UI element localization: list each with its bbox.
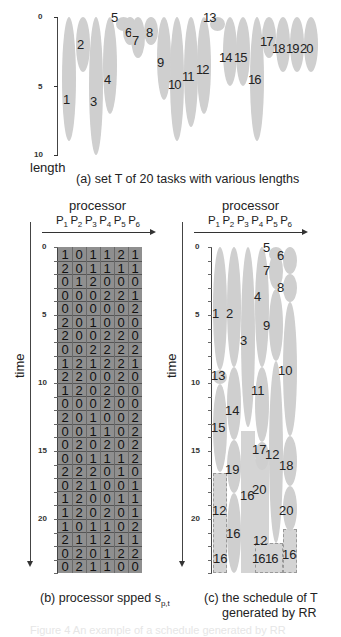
processor-label: P4 (251, 214, 263, 226)
task-label: 11 (182, 69, 194, 84)
processor-axis-arrow (42, 232, 152, 233)
processor-label: P3 (237, 214, 249, 226)
speed-cell: 0 (86, 329, 100, 342)
speed-cell: 0 (72, 289, 86, 302)
time-tick (208, 465, 212, 466)
speed-cell: 2 (58, 411, 72, 424)
speed-cell: 0 (72, 302, 86, 315)
speed-cell: 0 (100, 465, 114, 478)
speed-cell: 0 (114, 275, 128, 288)
speed-cell: 0 (114, 520, 128, 533)
speed-cell: 2 (114, 329, 128, 342)
speed-cell: 1 (114, 262, 128, 275)
speed-cell: 0 (72, 343, 86, 356)
task-label: 18 (279, 458, 293, 473)
speed-cell: 2 (58, 465, 72, 478)
speed-cell: 1 (86, 479, 100, 492)
speed-cell: 0 (114, 302, 128, 315)
speed-cell: 2 (86, 465, 100, 478)
speed-cell: 2 (114, 343, 128, 356)
speed-cell: 2 (72, 506, 86, 519)
speed-cell: 0 (86, 384, 100, 397)
processor-label: P5 (114, 214, 126, 226)
task-label: 15 (234, 50, 246, 65)
speed-cell: 2 (72, 465, 86, 478)
speed-cell: 2 (72, 357, 86, 370)
speed-cell: 1 (72, 533, 86, 546)
speed-cell: 0 (86, 302, 100, 315)
task-label: 19 (225, 462, 239, 477)
processor-axis-title: processor (222, 198, 279, 213)
speed-cell: 1 (86, 425, 100, 438)
speed-cell: 0 (86, 370, 100, 383)
task-label: 8 (146, 25, 152, 40)
task-label: 13 (211, 368, 225, 383)
speed-cell: 2 (86, 275, 100, 288)
processor-label: P6 (128, 214, 140, 226)
arrow-head-icon (150, 229, 156, 235)
speed-cell: 1 (128, 289, 142, 302)
speed-cell: 0 (86, 289, 100, 302)
panel-a-caption: (a) set T of 20 tasks with various lengt… (76, 172, 299, 186)
speed-cell: 2 (72, 547, 86, 560)
task-label: 19 (286, 41, 298, 56)
speed-cell: 0 (100, 316, 114, 329)
y-tick-label: 5 (38, 82, 42, 91)
processor-label: P6 (280, 214, 292, 226)
speed-cell: 1 (128, 479, 142, 492)
speed-cell: 2 (100, 289, 114, 302)
y-tick-label: 10 (191, 378, 200, 387)
task-label: 7 (132, 33, 138, 48)
speed-cell: 1 (58, 520, 72, 533)
time-tick (208, 397, 212, 398)
time-tick (208, 573, 212, 574)
speed-cell: 1 (86, 248, 100, 261)
speed-cell: 1 (128, 506, 142, 519)
arrow-head-icon (27, 561, 33, 567)
speed-cell: 2 (114, 370, 128, 383)
y-tick-label: 0 (42, 242, 46, 251)
y-tick-label: 0 (38, 12, 42, 21)
task-label: 13 (203, 10, 215, 25)
speed-cell: 2 (114, 547, 128, 560)
task-label: 9 (263, 318, 270, 333)
tick-5 (54, 86, 58, 87)
task-label: 12 (265, 447, 279, 462)
speed-cell: 1 (100, 547, 114, 560)
speed-cell: 2 (128, 425, 142, 438)
speed-cell: 2 (100, 438, 114, 451)
task-ellipse-4 (103, 17, 117, 114)
task-label: 2 (77, 37, 83, 52)
time-tick (208, 560, 212, 561)
speed-cell: 1 (100, 560, 114, 573)
speed-cell: 1 (58, 506, 72, 519)
speed-cell: 1 (86, 262, 100, 275)
y-tick-label: 20 (38, 514, 47, 523)
speed-cell: 0 (100, 411, 114, 424)
speed-cell: 0 (128, 397, 142, 410)
speed-cell: 2 (100, 357, 114, 370)
speed-cell: 0 (58, 397, 72, 410)
speed-cell: 0 (58, 289, 72, 302)
processor-label: P3 (85, 214, 97, 226)
time-tick (54, 573, 58, 574)
speed-cell: 1 (114, 533, 128, 546)
speed-cell: 0 (72, 397, 86, 410)
speed-cell: 0 (100, 275, 114, 288)
processor-label: P2 (222, 214, 234, 226)
time-tick (208, 451, 212, 452)
processor-label: P1 (208, 214, 220, 226)
speed-cell: 2 (86, 343, 100, 356)
speed-cell: 0 (86, 492, 100, 505)
speed-cell: 0 (100, 492, 114, 505)
task-label: 1 (63, 92, 69, 107)
time-tick (208, 437, 212, 438)
task-ellipse-1 (62, 17, 76, 141)
arrow-head-icon (302, 229, 308, 235)
task-label: 4 (254, 289, 261, 304)
task-label: 11 (251, 383, 265, 398)
speed-cell: 0 (100, 370, 114, 383)
task-label: 5 (111, 10, 117, 25)
speed-cell: 1 (86, 411, 100, 424)
speed-cell: 2 (72, 492, 86, 505)
